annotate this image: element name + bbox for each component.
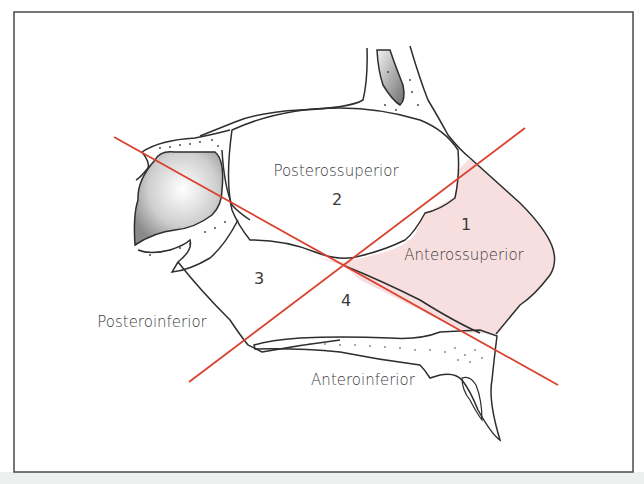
region-1-label: Anterossuperior [404, 246, 524, 264]
region-1-number: 1 [461, 215, 471, 234]
region-2-label: Posterossuperior [273, 162, 399, 180]
frontal-bone [200, 46, 470, 158]
region-4-number: 4 [341, 291, 351, 310]
region-2-number: 2 [332, 190, 342, 209]
region-4-label: Anteroinferior [311, 371, 416, 389]
nasal-septum-diagram: Posterossuperior 2 1 Anterossuperior 3 P… [0, 0, 644, 484]
region-3-label: Posteroinferior [97, 313, 207, 331]
region-3-number: 3 [254, 269, 264, 288]
frontal-sinus [377, 50, 404, 105]
